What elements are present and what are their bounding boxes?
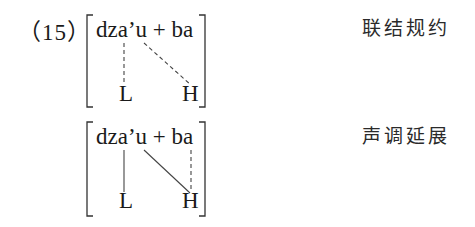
- right-bracket: [199, 15, 205, 107]
- gloss-tone-spreading: 声调延展: [362, 121, 450, 148]
- autosegmental-diagram-2: dza’u + ba L H: [84, 120, 208, 216]
- tone-low: L: [119, 81, 133, 107]
- right-bracket: [199, 122, 205, 216]
- example-number: （15）: [18, 13, 91, 47]
- tone-high: H: [182, 81, 199, 107]
- gloss-association-convention: 联结规约: [362, 13, 450, 40]
- association-line-solid: [144, 150, 190, 193]
- left-bracket: [87, 122, 93, 216]
- segment-string: dza’u + ba: [96, 124, 193, 150]
- segment-string: dza’u + ba: [96, 17, 193, 43]
- association-line-dashed: [144, 43, 191, 85]
- left-bracket: [87, 15, 93, 107]
- autosegmental-diagram-1: dza’u + ba L H: [84, 13, 208, 109]
- tone-high: H: [182, 188, 199, 214]
- tone-low: L: [119, 188, 133, 214]
